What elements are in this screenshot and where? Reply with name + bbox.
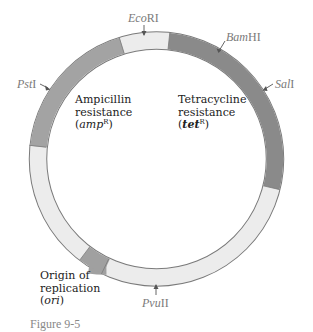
sali-label: SalI: [275, 77, 294, 91]
ori-label: Origin of replication (ori): [40, 269, 100, 307]
svg-text:(ori): (ori): [40, 294, 64, 307]
svg-text:replication: replication: [40, 282, 100, 295]
svg-text:(ampR): (ampR): [75, 118, 113, 131]
svg-text:resistance: resistance: [75, 106, 132, 119]
ecori-label: EcoRI: [127, 11, 159, 25]
svg-text:resistance: resistance: [178, 106, 235, 119]
figure-caption: Figure 9-5: [30, 317, 80, 332]
svg-text:(tetR): (tetR): [178, 118, 209, 131]
psti-arrow-icon: [40, 84, 51, 91]
sali-arrow-icon: [263, 84, 274, 91]
pvuii-label: PvuII: [141, 296, 169, 310]
svg-text:Ampicillin: Ampicillin: [74, 93, 131, 106]
psti-label: PstI: [16, 77, 36, 91]
bamhi-label: BamHI: [226, 30, 261, 44]
tet-label: Tetracycline resistance (tetR): [178, 93, 246, 131]
amp-label: Ampicillin resistance (ampR): [74, 93, 132, 131]
svg-text:Tetracycline: Tetracycline: [178, 93, 246, 106]
svg-text:Origin of: Origin of: [40, 269, 91, 282]
